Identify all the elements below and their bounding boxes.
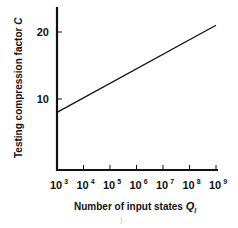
x-tick-label: 104 [77, 178, 95, 191]
x-tick-label: 107 [156, 178, 174, 191]
data-series [57, 25, 216, 112]
y-axis-title: Testing compression factor C [13, 17, 24, 158]
x-tick-label: 103 [50, 178, 68, 191]
x-tick-label: 105 [103, 178, 121, 191]
y-axis: 1020 [37, 7, 62, 171]
x-tick-label: 108 [183, 178, 201, 191]
scan-artifact: ) [120, 215, 123, 224]
y-tick-label: 20 [37, 26, 49, 38]
chart: 1020 103104105106107108109 Number of inp… [0, 0, 238, 228]
x-tick-label: 109 [209, 178, 227, 191]
x-axis-title: Number of input states QI [74, 200, 197, 214]
x-tick-label: 106 [130, 178, 148, 191]
x-axis: 103104105106107108109 [50, 165, 227, 191]
y-tick-label: 10 [37, 93, 49, 105]
series-line [57, 25, 216, 112]
